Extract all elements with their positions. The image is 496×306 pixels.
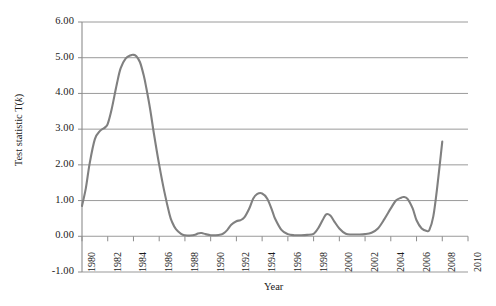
- x-tick-marks-group: [82, 236, 468, 241]
- x-axis-title: Year: [264, 281, 283, 292]
- data-series-line: [82, 55, 442, 236]
- gridlines-group: [82, 22, 468, 272]
- y-axis-title: Test statistic T(k): [13, 93, 25, 166]
- chart-figure: Test statistic T(k) -1.000.001.002.003.0…: [0, 0, 496, 306]
- chart-plot-area: Test statistic T(k): [0, 0, 496, 306]
- y-tick-marks-group: [78, 22, 82, 272]
